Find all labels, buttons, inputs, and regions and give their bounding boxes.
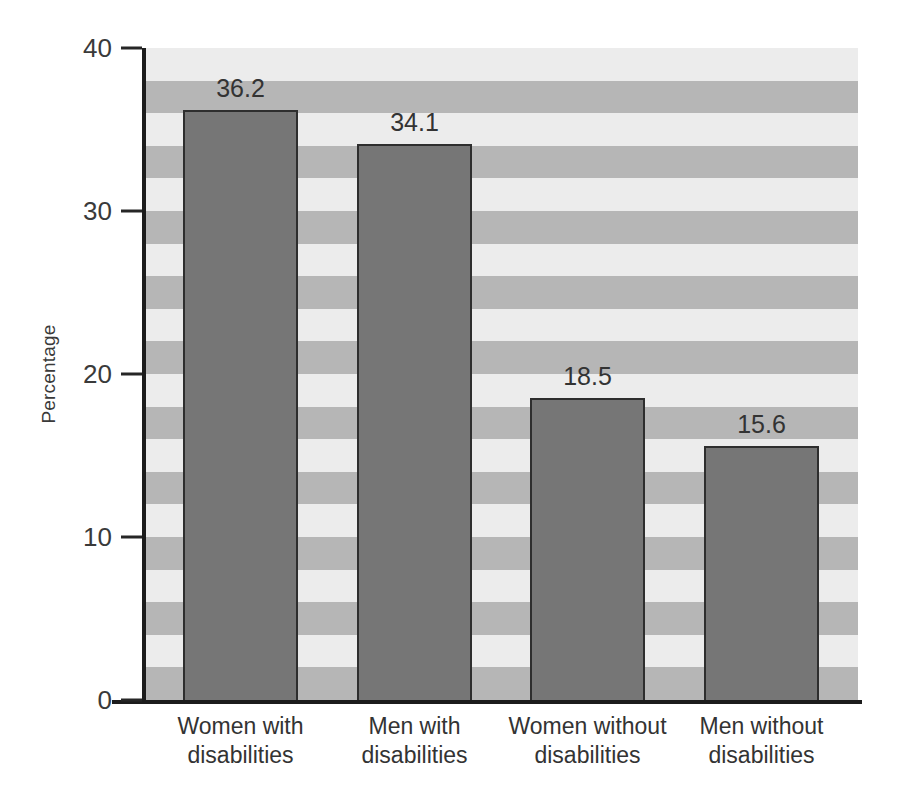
category-label-line-1: Men with xyxy=(368,713,460,739)
y-axis-tick-label: 40 xyxy=(60,33,112,64)
y-axis-tick-mark xyxy=(121,373,142,376)
bar-chart: Percentage 010203040 36.234.118.515.6 Wo… xyxy=(0,0,900,793)
bar xyxy=(183,110,298,700)
y-axis-tick-mark xyxy=(121,699,142,702)
x-axis-category-label: Men withdisabilities xyxy=(361,712,467,770)
category-label-line-2: disabilities xyxy=(361,741,467,770)
y-axis-tick-labels: 010203040 xyxy=(60,0,112,793)
x-axis-line xyxy=(112,700,862,704)
x-axis-category-label: Men withoutdisabilities xyxy=(699,712,823,770)
y-axis-title: Percentage xyxy=(38,48,60,700)
y-axis-tick-label: 0 xyxy=(60,685,112,716)
x-axis-category-label: Women withoutdisabilities xyxy=(508,712,666,770)
x-axis-category-label: Women withdisabilities xyxy=(177,712,303,770)
y-axis-tick-label: 10 xyxy=(60,522,112,553)
category-label-line-2: disabilities xyxy=(177,741,303,770)
category-label-line-1: Men without xyxy=(699,713,823,739)
category-label-line-2: disabilities xyxy=(699,741,823,770)
category-label-line-2: disabilities xyxy=(508,741,666,770)
y-axis-tick-label: 30 xyxy=(60,196,112,227)
bar-value-label: 36.2 xyxy=(216,74,265,103)
bar-value-label: 15.6 xyxy=(737,410,786,439)
plot-area xyxy=(146,48,858,700)
y-axis-line xyxy=(142,48,146,702)
bar xyxy=(704,446,819,700)
category-label-line-1: Women without xyxy=(508,713,666,739)
y-axis-tick-mark xyxy=(121,210,142,213)
y-axis-tick-mark xyxy=(121,47,142,50)
bar-value-label: 18.5 xyxy=(563,362,612,391)
y-axis-tick-mark xyxy=(121,536,142,539)
category-label-line-1: Women with xyxy=(177,713,303,739)
bar xyxy=(530,398,645,700)
y-axis-tick-label: 20 xyxy=(60,359,112,390)
bar xyxy=(357,144,472,700)
bar-value-label: 34.1 xyxy=(390,108,439,137)
